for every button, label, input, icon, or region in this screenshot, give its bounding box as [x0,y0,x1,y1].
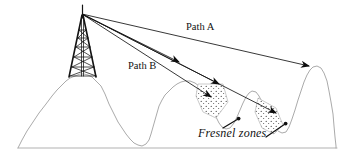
path-b-label: Path B [128,61,156,72]
tower-lattice-bracing [70,16,96,76]
transmission-tower [69,5,96,77]
fresnel-zones-label: Fresnel zones [198,127,266,139]
diffraction-ray-3 [82,14,276,113]
leader-dot-left [237,117,241,121]
leader-dot-right [284,122,288,126]
terrain-profile-group [18,66,337,148]
tower-leg-left [69,15,82,77]
fresnel-zone-left-region [196,84,228,118]
fresnel-zone-diagram: Path A Path B Fresnel zones [0,0,351,159]
diagram-canvas [0,0,351,159]
tower-leg-right [83,15,96,77]
terrain-profile-line [18,66,336,148]
path-a-label: Path A [186,22,214,33]
